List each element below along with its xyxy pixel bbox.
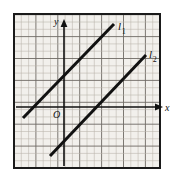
origin-label: O: [53, 109, 60, 120]
grid-lines: [14, 14, 160, 168]
coordinate-plane: xyOl1l2: [0, 0, 173, 184]
y-axis-label: y: [53, 16, 59, 27]
line-label-subscript-1: 1: [122, 27, 126, 36]
line-label-subscript-2: 2: [153, 55, 157, 64]
x-axis-label: x: [164, 102, 170, 113]
geometry-figure: xyOl1l2: [0, 0, 173, 184]
